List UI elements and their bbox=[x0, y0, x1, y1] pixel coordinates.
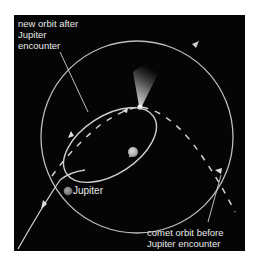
old-orbit-arrow-icon bbox=[215, 168, 222, 174]
ellipse-arrow-left-icon bbox=[68, 131, 74, 138]
comet-orbit-label-line-1: comet orbit before bbox=[147, 227, 224, 238]
new-orbit-label: new orbit after Jupiter encounter bbox=[18, 18, 108, 51]
new-orbit-label-line-1: new orbit after bbox=[18, 18, 108, 29]
jupiter-planet bbox=[64, 187, 73, 196]
jupiter-orbit-arrow-icon bbox=[192, 41, 199, 48]
new-orbit-label-line-2: Jupiter bbox=[18, 29, 108, 40]
new-orbit-leader-line bbox=[60, 52, 88, 112]
new-comet-orbit-ellipse bbox=[51, 92, 170, 197]
sun bbox=[128, 147, 138, 157]
new-orbit-label-line-3: encounter bbox=[18, 40, 108, 51]
comet-orbit-label: comet orbit before Jupiter encounter bbox=[147, 227, 224, 249]
comet-tail-glow bbox=[133, 64, 162, 108]
jupiter-label: Jupiter bbox=[73, 185, 103, 196]
comet-orbit-label-line-2: Jupiter encounter bbox=[147, 238, 224, 249]
old-comet-orbit-path bbox=[52, 107, 235, 212]
